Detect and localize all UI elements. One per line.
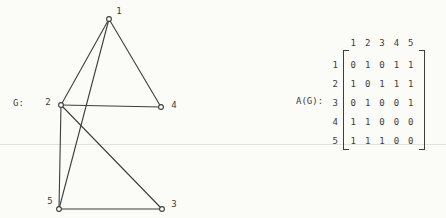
matrix-cell-1-4: 1 [389,56,403,75]
edge-1-4 [109,19,161,107]
vertex-label-5: 5 [47,196,52,206]
vertex-label-2: 2 [45,97,50,107]
edge-2-4 [61,105,161,107]
matrix-cell-5-4: 0 [389,132,403,151]
matrix-right-bracket [419,50,425,150]
edge-2-5 [59,105,61,209]
vertex-label-1: 1 [116,6,121,16]
matrix-cell-3-5: 1 [404,94,418,113]
matrix-col-header-1: 1 [346,38,360,48]
edge-1-2 [61,19,109,105]
matrix-row-headers: 12345 [324,56,338,151]
matrix-cell-4-2: 1 [360,113,374,132]
vertex-label-4: 4 [171,100,176,110]
matrix-cell-2-3: 1 [375,75,389,94]
matrix-cell-1-3: 0 [375,56,389,75]
matrix-cell-2-1: 1 [346,75,360,94]
matrix-cell-5-3: 1 [375,132,389,151]
matrix-col-header-4: 4 [389,38,403,48]
matrix-col-header-5: 5 [404,38,418,48]
matrix-cell-1-2: 1 [360,56,374,75]
matrix-cell-5-1: 1 [346,132,360,151]
vertex-4 [159,105,164,110]
matrix-cell-3-2: 1 [360,94,374,113]
vertex-3 [160,207,165,212]
matrix-cell-2-4: 1 [389,75,403,94]
vertex-2 [59,103,64,108]
matrix-cell-4-5: 0 [404,113,418,132]
matrix-row-header-4: 4 [324,113,338,132]
vertex-5 [57,207,62,212]
matrix-label: A(G): [296,96,323,106]
matrix-cell-4-4: 0 [389,113,403,132]
matrix-cell-1-5: 1 [404,56,418,75]
matrix-col-header-3: 3 [375,38,389,48]
matrix-cell-4-3: 0 [375,113,389,132]
matrix-cell-3-1: 0 [346,94,360,113]
matrix-cell-2-5: 1 [404,75,418,94]
vertex-label-3: 3 [171,199,176,209]
figure-page: G: 12345 A(G): 12345 12345 0101110111010… [0,0,446,218]
matrix-cell-3-4: 0 [389,94,403,113]
matrix-cell-3-3: 0 [375,94,389,113]
edge-1-5 [59,19,109,209]
matrix-row-header-3: 3 [324,94,338,113]
matrix-row-header-1: 1 [324,56,338,75]
adjacency-matrix: A(G): 12345 12345 0101110111010011100011… [296,38,431,153]
matrix-cell-5-2: 1 [360,132,374,151]
matrix-cell-1-1: 0 [346,56,360,75]
matrix-col-header-2: 2 [360,38,374,48]
matrix-row-header-2: 2 [324,75,338,94]
matrix-grid: 0101110111010011100011100 [346,56,418,151]
edge-2-3 [61,105,162,209]
matrix-cell-4-1: 1 [346,113,360,132]
matrix-cell-2-2: 0 [360,75,374,94]
matrix-column-headers: 12345 [346,38,418,48]
matrix-cell-5-5: 0 [404,132,418,151]
matrix-row-header-5: 5 [324,132,338,151]
vertex-1 [107,17,112,22]
